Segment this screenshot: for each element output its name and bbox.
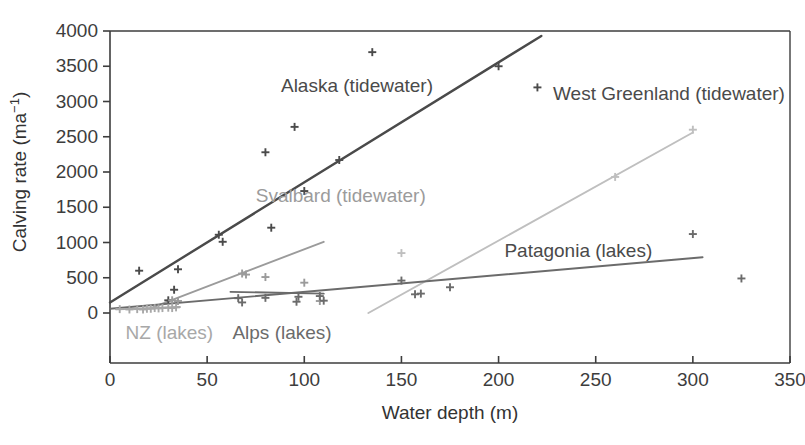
x-tick-label: 200 bbox=[483, 369, 515, 390]
data-point bbox=[135, 267, 143, 275]
y-axis-title-text: Calving rate (ma−1) bbox=[7, 92, 30, 253]
data-point bbox=[219, 238, 227, 246]
x-tick-label: 250 bbox=[580, 369, 612, 390]
data-point bbox=[234, 294, 242, 302]
series-label-svalbard-tidewater: Svalbard (tidewater) bbox=[256, 185, 426, 206]
data-point bbox=[533, 83, 541, 91]
series-patagonia-lakes bbox=[110, 257, 703, 308]
y-tick-label: 1000 bbox=[56, 232, 98, 253]
x-tick-label: 300 bbox=[677, 369, 709, 390]
data-point bbox=[174, 265, 182, 273]
regression-line bbox=[368, 133, 692, 313]
data-point bbox=[261, 148, 269, 156]
regression-line bbox=[110, 257, 703, 308]
series-west-greenland-tidewater bbox=[368, 133, 692, 313]
data-point bbox=[261, 273, 269, 281]
y-tick-label: 1500 bbox=[56, 196, 98, 217]
data-point bbox=[238, 298, 246, 306]
markers-patagonia-lakes bbox=[238, 230, 745, 306]
calving-rate-figure: 0500100015002000250030003500400005010015… bbox=[0, 0, 805, 445]
data-point bbox=[417, 290, 425, 298]
data-point bbox=[267, 224, 275, 232]
series-label-nz-lakes: NZ (lakes) bbox=[126, 322, 214, 343]
data-point bbox=[446, 283, 454, 291]
data-point bbox=[300, 279, 308, 287]
y-axis-title: Calving rate (ma−1) bbox=[7, 92, 30, 253]
data-point bbox=[397, 249, 405, 257]
data-point bbox=[737, 274, 745, 282]
series-label-patagonia-lakes: Patagonia (lakes) bbox=[504, 240, 652, 261]
data-point bbox=[170, 286, 178, 294]
x-axis-title: Water depth (m) bbox=[382, 402, 519, 423]
y-tick-label: 500 bbox=[66, 267, 98, 288]
data-point bbox=[320, 297, 328, 305]
x-tick-label: 0 bbox=[105, 369, 116, 390]
data-point bbox=[291, 123, 299, 131]
x-tick-label: 50 bbox=[197, 369, 218, 390]
data-point bbox=[238, 270, 246, 278]
series-label-alaska-tidewater: Alaska (tidewater) bbox=[281, 75, 433, 96]
x-tick-label: 100 bbox=[288, 369, 320, 390]
y-tick-label: 3000 bbox=[56, 91, 98, 112]
y-tick-label: 2000 bbox=[56, 161, 98, 182]
data-point bbox=[689, 126, 697, 134]
y-tick-label: 3500 bbox=[56, 55, 98, 76]
series-label-west-greenland-tidewater: West Greenland (tidewater) bbox=[553, 83, 785, 104]
series-labels-group: Alaska (tidewater)Svalbard (tidewater)We… bbox=[126, 75, 785, 343]
y-tick-label: 4000 bbox=[56, 20, 98, 41]
x-tick-label: 350 bbox=[774, 369, 805, 390]
markers-west-greenland-tidewater bbox=[397, 126, 696, 257]
data-point bbox=[689, 230, 697, 238]
data-point bbox=[116, 305, 124, 313]
x-tick-label: 150 bbox=[386, 369, 418, 390]
y-tick-label: 0 bbox=[87, 302, 98, 323]
y-tick-label: 2500 bbox=[56, 126, 98, 147]
markers-svalbard-tidewater bbox=[168, 270, 324, 305]
chart-canvas: 0500100015002000250030003500400005010015… bbox=[0, 0, 805, 445]
series-label-alps-lakes: Alps (lakes) bbox=[232, 322, 331, 343]
data-point bbox=[368, 48, 376, 56]
